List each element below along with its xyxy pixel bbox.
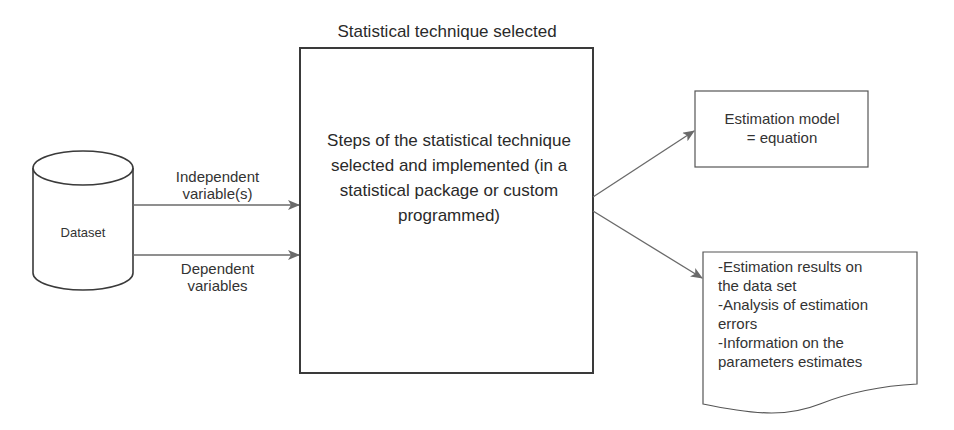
independent-label: Independent variable(s) bbox=[160, 168, 275, 202]
report-item: -Information on the parameters estimates bbox=[718, 333, 918, 371]
report-text: -Estimation results on the data set -Ana… bbox=[718, 257, 918, 371]
model-arrow bbox=[593, 131, 694, 197]
technique-text: Steps of the statistical technique selec… bbox=[318, 128, 580, 228]
dependent-label-text: Dependent variables bbox=[181, 260, 254, 294]
report-arrow bbox=[593, 211, 702, 278]
independent-label-text: Independent variable(s) bbox=[176, 168, 259, 202]
report-item: -Analysis of estimation errors bbox=[718, 295, 918, 333]
diagram-title: Statistical technique selected bbox=[302, 22, 592, 42]
dataset-cylinder-icon bbox=[33, 151, 133, 290]
model-text: Estimation model = equation bbox=[696, 109, 868, 147]
dataset-label: Dataset bbox=[33, 225, 133, 240]
dependent-label: Dependent variables bbox=[165, 260, 270, 294]
report-item: -Estimation results on the data set bbox=[718, 257, 918, 295]
